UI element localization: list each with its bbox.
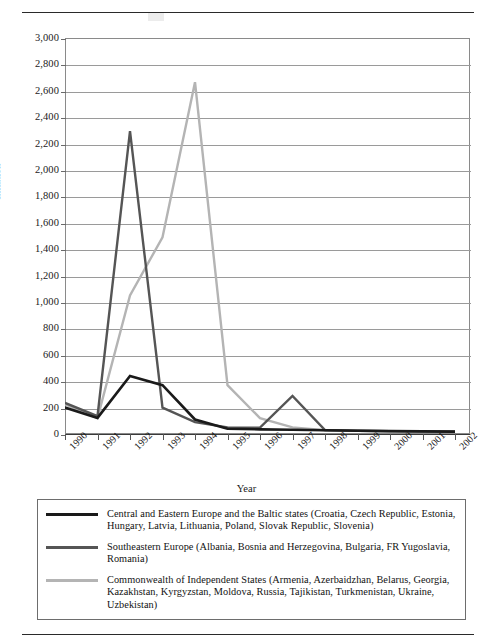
legend-item: Commonwealth of Independent States (Arme…	[46, 574, 458, 611]
y-axis-tick-label: 2,000	[13, 165, 59, 175]
top-page-rule	[22, 12, 474, 13]
figure-page: 3,0002,8002,6002,4002,2002,0001,8001,600…	[0, 0, 493, 644]
y-axis-tick-label: 400	[13, 376, 59, 386]
x-axis-tick	[163, 434, 164, 440]
y-axis-tick-label: 2,800	[13, 59, 59, 69]
y-axis-tick-label: 1,800	[13, 191, 59, 201]
y-axis-tick-label: 800	[13, 323, 59, 333]
legend-swatch-line	[46, 579, 98, 582]
x-axis-tick	[228, 434, 229, 440]
x-axis-title: Year	[0, 483, 493, 494]
x-axis-tick	[98, 434, 99, 440]
y-axis-tick-label: 1,600	[13, 218, 59, 228]
y-axis-tick-label: 0	[13, 429, 59, 439]
legend-item-label: Southeastern Europe (Albania, Bosnia and…	[107, 541, 458, 566]
x-axis-tick	[325, 434, 326, 440]
x-axis-tick	[65, 434, 66, 440]
series-line	[65, 376, 455, 432]
y-axis-tick-label: 1,200	[13, 271, 59, 281]
y-axis-tick-label: 2,600	[13, 86, 59, 96]
x-axis-tick	[293, 434, 294, 440]
y-axis-tick-label: 600	[13, 350, 59, 360]
y-axis-tick-label: 200	[13, 403, 59, 413]
y-axis-tick-label: 1,400	[13, 244, 59, 254]
legend-swatch-line	[46, 513, 98, 516]
x-axis-tick	[260, 434, 261, 440]
chart-series-layer	[65, 38, 470, 434]
x-axis-tick	[390, 434, 391, 440]
legend-item-label: Commonwealth of Independent States (Arme…	[107, 574, 458, 611]
page-artifact	[148, 13, 164, 21]
series-line	[65, 131, 455, 432]
y-axis-title: Inflation	[0, 142, 2, 222]
legend: Central and Eastern Europe and the Balti…	[37, 499, 466, 620]
y-axis-tick-label: 2,400	[13, 112, 59, 122]
y-axis-tick-label: 1,000	[13, 297, 59, 307]
x-axis-tick	[455, 434, 456, 440]
series-line	[65, 82, 455, 431]
y-axis-tick-label: 3,000	[13, 33, 59, 43]
x-axis-tick	[130, 434, 131, 440]
y-axis-tick-label: 2,200	[13, 139, 59, 149]
legend-swatch-line	[46, 546, 98, 549]
x-axis-tick	[423, 434, 424, 440]
x-axis-tick	[195, 434, 196, 440]
legend-item-label: Central and Eastern Europe and the Balti…	[107, 508, 458, 533]
legend-item: Central and Eastern Europe and the Balti…	[46, 508, 458, 533]
bottom-page-rule	[22, 634, 474, 635]
x-axis-tick	[358, 434, 359, 440]
legend-item: Southeastern Europe (Albania, Bosnia and…	[46, 541, 458, 566]
